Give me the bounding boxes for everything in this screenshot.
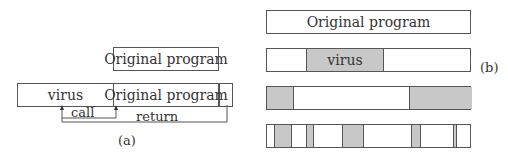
virus-segment-start (267, 87, 294, 109)
return-label: return (136, 110, 178, 123)
prepend-infection-row: virus (266, 48, 471, 72)
caption-a: (a) (118, 134, 136, 147)
virus-segment: virus (306, 49, 384, 71)
virus-fragment (342, 125, 364, 147)
original-program-box-b: Original program (266, 10, 471, 34)
split-infection-row (266, 86, 471, 110)
virus-fragment (306, 125, 314, 147)
virus-segment-end (409, 87, 472, 109)
virus-fragment (453, 125, 457, 147)
virus-label: virus (327, 53, 362, 67)
call-label: call (71, 106, 94, 119)
caption-b: (b) (480, 61, 498, 74)
original-program-label: Original program (307, 15, 431, 29)
virus-fragment (411, 125, 421, 147)
virus-fragment (274, 125, 292, 147)
scattered-infection-row (266, 124, 471, 148)
